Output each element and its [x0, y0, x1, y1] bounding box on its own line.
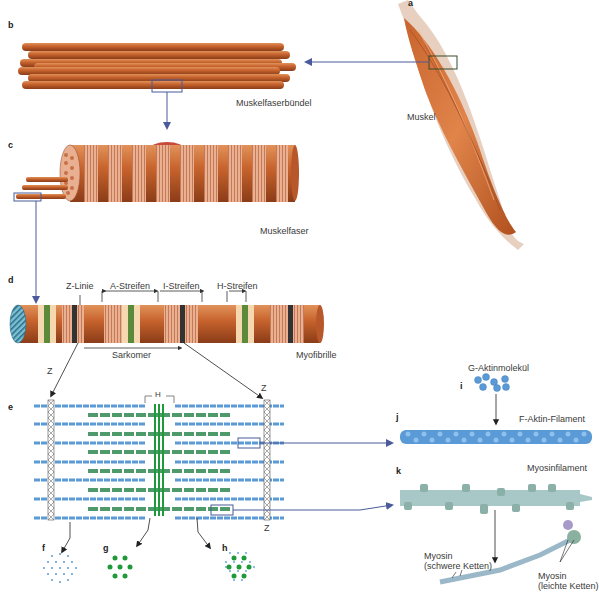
- label-myosin-schwere-ketten: Myosin (schwere Ketten): [424, 551, 492, 571]
- muscle-illustration: [398, 0, 524, 250]
- label-myosin-leicht-line1: Myosin: [538, 571, 599, 581]
- label-z-right-bottom: Z: [264, 523, 270, 533]
- panel-label-j: j: [396, 412, 399, 422]
- label-myosin-leichte-ketten: Myosin (leichte Ketten): [538, 571, 599, 591]
- g-actin-molecules: [475, 374, 510, 392]
- label-myofibrille: Myofibrille: [296, 350, 337, 360]
- label-g-aktinmolekuel: G-Aktinmolekül: [468, 363, 529, 373]
- panel-label-a: a: [408, 0, 413, 8]
- panel-label-c: c: [8, 140, 13, 150]
- label-myosin-schwer-line2: (schwere Ketten): [424, 561, 492, 571]
- label-muskelfaser: Muskelfaser: [260, 226, 309, 236]
- panel-label-f: f: [42, 543, 45, 553]
- label-muskel: Muskel: [407, 112, 436, 122]
- panel-label-i: i: [460, 381, 463, 391]
- label-h-streifen: H-Streifen: [217, 281, 258, 291]
- panel-label-b: b: [8, 20, 14, 30]
- myofibril-illustration: [10, 305, 324, 343]
- label-myosin-schwer-line1: Myosin: [424, 551, 492, 561]
- label-sarkomer: Sarkomer: [112, 350, 151, 360]
- arrow-myosin-to-k: [233, 505, 392, 510]
- label-i-streifen: I-Streifen: [163, 281, 200, 291]
- cross-section-f: [43, 553, 77, 583]
- label-myosin-leicht-line2: (leichte Ketten): [538, 581, 599, 591]
- panel-label-e: e: [8, 402, 13, 412]
- panel-label-d: d: [8, 275, 14, 285]
- muscle-fiber-illustration: [14, 142, 299, 202]
- panel-label-k: k: [396, 466, 401, 476]
- label-f-aktin-filament: F-Aktin-Filament: [519, 414, 585, 424]
- arrow-zline-right: [184, 343, 262, 398]
- f-actin-filament: [400, 430, 592, 444]
- myosin-filament: [400, 484, 592, 514]
- cross-section-h: [225, 552, 255, 581]
- arrow-zline-left: [51, 343, 78, 396]
- label-z-left: Z: [47, 366, 53, 376]
- panel-label-h: h: [222, 543, 228, 553]
- fiber-bundle-illustration: [18, 43, 296, 92]
- label-muskelfaserbuendel: Muskelfaserbündel: [236, 98, 312, 108]
- label-myosinfilament: Myosinfilament: [527, 463, 587, 473]
- label-z-right-top: Z: [261, 383, 267, 393]
- label-a-streifen: A-Streifen: [110, 281, 150, 291]
- cross-section-g: [108, 556, 133, 579]
- sarcomere-illustration: [34, 396, 284, 520]
- label-h-zone: H: [155, 390, 161, 399]
- label-z-linie: Z-Linie: [66, 281, 94, 291]
- panel-label-g: g: [103, 543, 109, 553]
